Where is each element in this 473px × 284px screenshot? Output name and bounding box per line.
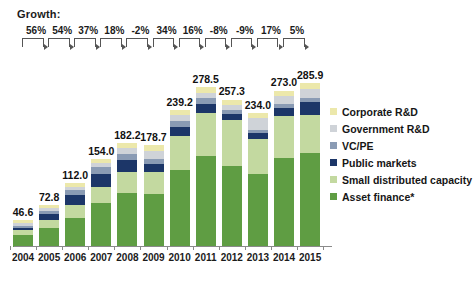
x-axis-label: 2008 bbox=[113, 252, 141, 263]
stacked-bar[interactable] bbox=[39, 205, 59, 247]
bar-segment[interactable] bbox=[39, 228, 59, 247]
bar-total-label: 46.6 bbox=[4, 206, 42, 218]
bar-segment[interactable] bbox=[144, 151, 164, 159]
bar-segment[interactable] bbox=[144, 164, 164, 173]
bar-group[interactable]: 46.6 bbox=[13, 55, 33, 247]
x-axis-tick bbox=[219, 246, 220, 250]
stacked-bar[interactable] bbox=[144, 145, 164, 247]
legend-item[interactable]: Public markets bbox=[330, 154, 473, 171]
growth-bracket bbox=[153, 38, 175, 47]
growth-bracket-arrow-icon bbox=[279, 44, 283, 50]
bar-segment[interactable] bbox=[274, 116, 294, 158]
legend-swatch-icon bbox=[330, 125, 337, 132]
stacked-bar[interactable] bbox=[274, 91, 294, 247]
bar-group[interactable]: 273.0 bbox=[274, 55, 294, 247]
stacked-bar[interactable] bbox=[91, 159, 111, 247]
legend-label: Government R&D bbox=[342, 123, 430, 135]
x-axis-tick bbox=[114, 246, 115, 250]
x-axis-label: 2012 bbox=[218, 252, 246, 263]
stacked-bar[interactable] bbox=[65, 183, 85, 247]
x-axis-tick bbox=[62, 246, 63, 250]
x-axis-label: 2014 bbox=[270, 252, 298, 263]
stacked-bar[interactable] bbox=[248, 113, 268, 247]
x-axis-tick bbox=[297, 246, 298, 250]
bar-segment[interactable] bbox=[117, 172, 137, 192]
growth-bracket-arrow-icon bbox=[70, 44, 74, 50]
bar-segment[interactable] bbox=[274, 158, 294, 247]
bar-segment[interactable] bbox=[196, 156, 216, 247]
growth-bracket-arrow-icon bbox=[200, 44, 204, 50]
bar-segment[interactable] bbox=[117, 160, 137, 172]
bar-segment[interactable] bbox=[222, 120, 242, 166]
stacked-bar[interactable] bbox=[170, 110, 190, 247]
bar-segment[interactable] bbox=[170, 170, 190, 247]
bar-segment[interactable] bbox=[144, 172, 164, 193]
bar-segment[interactable] bbox=[91, 187, 111, 204]
legend-swatch-icon bbox=[330, 108, 337, 115]
x-axis-tick bbox=[88, 246, 89, 250]
x-axis-label: 2004 bbox=[9, 252, 37, 263]
bar-total-label: 285.9 bbox=[291, 69, 329, 81]
legend-item[interactable]: Small distributed capacity bbox=[330, 171, 473, 188]
bar-segment[interactable] bbox=[248, 174, 268, 247]
stacked-bar[interactable] bbox=[196, 87, 216, 247]
bar-segment[interactable] bbox=[274, 108, 294, 117]
bar-segment[interactable] bbox=[170, 136, 190, 170]
x-axis-tick bbox=[193, 246, 194, 250]
bar-group[interactable]: 278.5 bbox=[196, 55, 216, 247]
bar-segment[interactable] bbox=[65, 218, 85, 247]
bar-segment[interactable] bbox=[39, 220, 59, 229]
legend-item[interactable]: VC/PE bbox=[330, 137, 473, 154]
legend-swatch-icon bbox=[330, 159, 337, 166]
bar-segment[interactable] bbox=[300, 115, 320, 153]
bar-total-label: 154.0 bbox=[82, 145, 120, 157]
bar-group[interactable]: 257.3 bbox=[222, 55, 242, 247]
bar-segment[interactable] bbox=[196, 113, 216, 157]
legend-swatch-icon bbox=[330, 142, 337, 149]
legend-swatch-icon bbox=[330, 176, 337, 183]
bar-group[interactable]: 154.0 bbox=[91, 55, 111, 247]
x-axis-labels: 2004200520062007200820092010201120122013… bbox=[0, 252, 340, 268]
growth-bracket bbox=[179, 38, 201, 47]
bar-group[interactable]: 72.8 bbox=[39, 55, 59, 247]
legend-item[interactable]: Corporate R&D bbox=[330, 103, 473, 120]
bar-group[interactable]: 285.9 bbox=[300, 55, 320, 247]
stacked-bar[interactable] bbox=[300, 83, 320, 247]
bar-segment[interactable] bbox=[117, 193, 137, 247]
x-axis-tick bbox=[140, 246, 141, 250]
bar-segment[interactable] bbox=[248, 118, 268, 129]
bar-group[interactable]: 178.7 bbox=[144, 55, 164, 247]
x-axis-tick bbox=[36, 246, 37, 250]
bar-segment[interactable] bbox=[65, 205, 85, 218]
x-axis-tick bbox=[271, 246, 272, 250]
growth-bracket bbox=[231, 38, 253, 47]
bar-segment[interactable] bbox=[300, 89, 320, 98]
bar-segment[interactable] bbox=[91, 203, 111, 247]
legend-item[interactable]: Government R&D bbox=[330, 120, 473, 137]
x-axis-label: 2007 bbox=[87, 252, 115, 263]
bar-group[interactable]: 182.2 bbox=[117, 55, 137, 247]
bar-segment[interactable] bbox=[248, 139, 268, 173]
legend-item[interactable]: Asset finance* bbox=[330, 188, 473, 205]
growth-bracket-arrow-icon bbox=[96, 44, 100, 50]
x-axis-label: 2011 bbox=[192, 252, 220, 263]
x-axis-label: 2015 bbox=[296, 252, 324, 263]
bar-segment[interactable] bbox=[300, 102, 320, 115]
stacked-bar[interactable] bbox=[222, 100, 242, 247]
bar-segment[interactable] bbox=[300, 153, 320, 247]
growth-bracket bbox=[22, 38, 44, 47]
x-axis-label: 2010 bbox=[166, 252, 194, 263]
stacked-bar[interactable] bbox=[117, 143, 137, 247]
bar-segment[interactable] bbox=[91, 174, 111, 187]
legend-label: VC/PE bbox=[342, 140, 374, 152]
bar-segment[interactable] bbox=[196, 104, 216, 113]
bar-segment[interactable] bbox=[144, 194, 164, 247]
legend-label: Corporate R&D bbox=[342, 106, 418, 118]
bar-segment[interactable] bbox=[274, 96, 294, 104]
stacked-bar[interactable] bbox=[13, 220, 33, 247]
bar-segment[interactable] bbox=[222, 166, 242, 247]
legend-label: Small distributed capacity bbox=[342, 174, 472, 186]
bar-segment[interactable] bbox=[170, 127, 190, 136]
growth-bracket-arrow-icon bbox=[174, 44, 178, 50]
bar-segment[interactable] bbox=[65, 195, 85, 204]
